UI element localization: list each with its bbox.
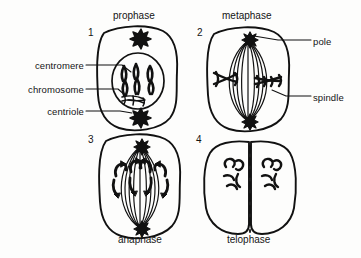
panel-title-prophase: prophase — [113, 10, 155, 21]
panel-title-telophase: telophase — [227, 234, 270, 245]
pole-top-3 — [134, 139, 150, 155]
pole-bottom-2 — [242, 114, 258, 130]
chromosome-group-right-4 — [262, 159, 281, 189]
spindle-fibres-3 — [121, 147, 159, 228]
leader-line-chromosome — [86, 89, 126, 96]
centriole-top-1 — [130, 29, 151, 49]
panel-number-1: 1 — [88, 27, 94, 38]
panel-4-telophase — [204, 141, 296, 234]
label-chromosome: chromosome — [2, 84, 84, 95]
chromosome-group-left-4 — [224, 159, 243, 189]
label-centromere: centromere — [2, 60, 84, 71]
panel-number-4: 4 — [196, 134, 202, 145]
leader-line-centriole — [86, 111, 132, 113]
label-spindle: spindle — [313, 92, 344, 103]
label-centriole: centriole — [2, 106, 84, 117]
panel-2-metaphase — [207, 27, 289, 131]
panel-1-prophase — [97, 26, 177, 130]
pole-top-2 — [242, 32, 258, 48]
panel-number-3: 3 — [88, 134, 94, 145]
panel-title-anaphase: anaphase — [118, 234, 162, 245]
panel-number-2: 2 — [197, 27, 203, 38]
centriole-bottom-1 — [130, 108, 151, 128]
panel-title-metaphase: metaphase — [222, 10, 271, 21]
panel-3-anaphase — [99, 134, 180, 238]
label-pole: pole — [313, 36, 331, 47]
leader-line-spindle — [272, 90, 311, 96]
diagram-artwork — [0, 0, 361, 258]
daughter-cell-left-4 — [204, 141, 249, 234]
mitosis-diagram-figure: prophase metaphase anaphase telophase 1 … — [0, 0, 361, 258]
chromosome-pair-lower-1 — [122, 95, 145, 106]
